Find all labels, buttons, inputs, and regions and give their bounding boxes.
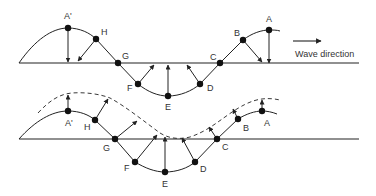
point-d-top bbox=[197, 81, 203, 87]
label-b-bottom: B bbox=[243, 123, 249, 133]
point-h-top bbox=[93, 36, 99, 42]
label-f-top: F bbox=[127, 83, 133, 93]
point-c-top bbox=[217, 60, 223, 66]
arrow-b-top bbox=[243, 40, 262, 62]
arrow-h-bottom bbox=[95, 99, 108, 120]
wave-diagram: A' H G F E D C B A Wave direction bbox=[0, 0, 376, 196]
point-e-top bbox=[165, 93, 171, 99]
label-a-bottom: A bbox=[264, 118, 270, 128]
point-b-top bbox=[240, 37, 246, 43]
label-d-top: D bbox=[207, 83, 214, 93]
point-e-bottom bbox=[162, 169, 168, 175]
label-c-bottom: C bbox=[222, 142, 229, 152]
point-c-bottom bbox=[214, 136, 220, 142]
label-g-top: G bbox=[122, 51, 129, 61]
point-a-top bbox=[266, 27, 272, 33]
point-a-prime-top bbox=[65, 25, 71, 31]
bottom-panel: A' H G F E D C B A bbox=[19, 93, 359, 189]
point-d-bottom bbox=[192, 159, 198, 165]
arrow-d-top bbox=[187, 65, 200, 84]
label-e-bottom: E bbox=[162, 179, 168, 189]
label-h-bottom: H bbox=[84, 122, 91, 132]
point-g-bottom bbox=[112, 136, 118, 142]
point-f-bottom bbox=[132, 159, 138, 165]
arrow-d-bottom bbox=[182, 138, 195, 162]
label-a-top: A bbox=[266, 14, 272, 24]
label-e-top: E bbox=[165, 102, 171, 112]
point-a-prime-bottom bbox=[65, 108, 71, 114]
point-f-top bbox=[135, 81, 141, 87]
top-panel: A' H G F E D C B A Wave direction bbox=[19, 11, 359, 112]
label-h-top: H bbox=[101, 27, 108, 37]
arrow-h-top bbox=[78, 39, 96, 61]
label-a-prime-bottom: A' bbox=[65, 118, 73, 128]
label-c-top: C bbox=[210, 52, 217, 62]
label-b-top: B bbox=[234, 28, 240, 38]
point-a-bottom bbox=[259, 108, 265, 114]
label-f-bottom: F bbox=[124, 163, 130, 173]
label-d-bottom: D bbox=[200, 164, 207, 174]
point-g-top bbox=[115, 60, 121, 66]
arrow-f-top bbox=[138, 65, 154, 84]
label-a-prime-top: A' bbox=[64, 11, 72, 21]
point-h-bottom bbox=[92, 117, 98, 123]
wave-direction-label: Wave direction bbox=[295, 49, 354, 59]
label-g-bottom: G bbox=[103, 143, 110, 153]
arrow-g-bottom bbox=[115, 121, 137, 139]
point-b-bottom bbox=[235, 116, 241, 122]
